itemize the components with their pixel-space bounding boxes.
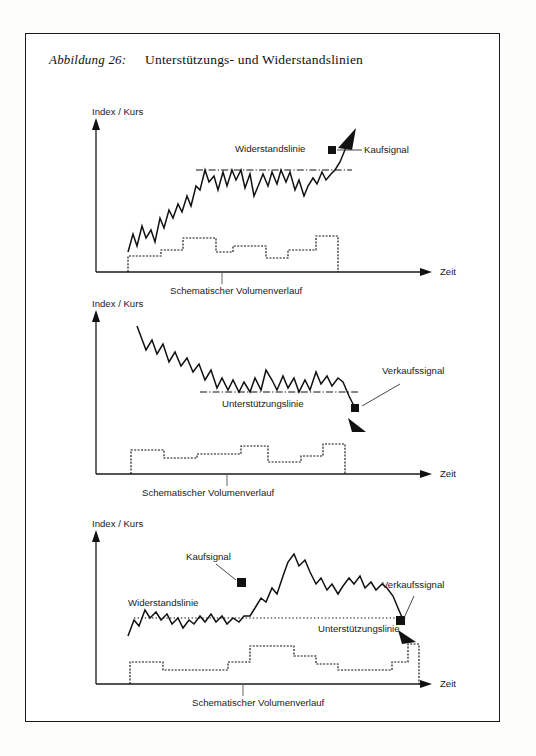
chart-support-breakdown: Index / Kurs Zeit Unterstützungslinie Ve…: [0, 292, 536, 507]
chart1-x-axis-label: Zeit: [440, 266, 456, 277]
chart2-y-axis-label: Index / Kurs: [92, 298, 143, 309]
chart1-x-axis-arrowhead: [420, 268, 432, 276]
chart3-volume-caption: Schematischer Volumenverlauf: [192, 697, 325, 708]
chart2-x-axis-label: Zeit: [440, 468, 456, 479]
chart3-x-axis-arrowhead: [420, 680, 432, 688]
figure-title: Unterstützungs- und Widerstandslinien: [145, 52, 363, 67]
chart3-y-axis-label: Index / Kurs: [92, 518, 143, 529]
chart1-buy-signal-marker: [328, 146, 336, 154]
chart2-support-label: Unterstützungslinie: [222, 398, 304, 409]
chart2-sell-signal-leader: [362, 384, 400, 406]
chart3-volume-profile: [130, 644, 419, 684]
chart1-buy-signal-label: Kaufsignal: [364, 144, 409, 155]
figure-caption: Abbildung 26:Unterstützungs- und Widerst…: [49, 52, 469, 68]
chart-resistance-and-support: Index / Kurs Zeit Widerstandslinie Unter…: [0, 512, 536, 722]
chart3-sell-signal-leader: [404, 596, 414, 618]
chart3-sell-signal-label: Verkaufssignal: [382, 579, 444, 590]
page-background: Abbildung 26:Unterstützungs- und Widerst…: [0, 0, 536, 756]
chart1-volume-profile: [128, 236, 338, 272]
chart2-volume-profile: [131, 444, 345, 474]
chart1-breakout-arrowhead: [338, 128, 356, 150]
chart-resistance-breakout: Index / Kurs Zeit Widerstandslinie Kaufs…: [0, 100, 536, 300]
chart3-x-axis-label: Zeit: [440, 678, 456, 689]
chart2-price-line: [137, 326, 355, 408]
chart2-y-axis-arrowhead: [92, 310, 100, 322]
chart2-sell-signal-marker: [351, 404, 359, 412]
chart2-volume-caption: Schematischer Volumenverlauf: [142, 487, 275, 498]
chart3-support-label: Unterstützungslinie: [318, 623, 400, 634]
chart1-resistance-label: Widerstandslinie: [235, 143, 305, 154]
chart1-y-axis-label: Index / Kurs: [92, 106, 143, 117]
chart3-buy-signal-leader: [216, 564, 236, 580]
figure-number: Abbildung 26:: [49, 52, 145, 68]
chart3-breakdown-arrowhead: [398, 630, 416, 644]
chart3-buy-signal-marker: [237, 578, 246, 587]
chart3-y-axis-arrowhead: [92, 530, 100, 542]
chart2-breakdown-arrowhead: [348, 418, 366, 432]
chart1-price-line: [128, 140, 349, 252]
chart3-resistance-label: Widerstandslinie: [128, 597, 198, 608]
chart1-y-axis-arrowhead: [92, 118, 100, 130]
chart3-buy-signal-label: Kaufsignal: [186, 551, 231, 562]
chart2-sell-signal-label: Verkaufssignal: [382, 365, 444, 376]
chart2-x-axis-arrowhead: [420, 470, 432, 478]
